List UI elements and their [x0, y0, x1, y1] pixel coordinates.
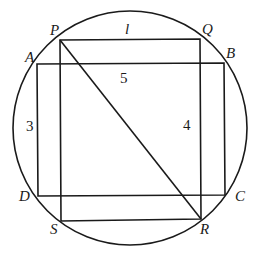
point-label-r: R	[199, 221, 209, 237]
point-label-a: A	[24, 49, 35, 65]
side-label-4: 4	[183, 117, 191, 133]
point-label-d: D	[18, 188, 30, 204]
point-label-s: S	[50, 221, 58, 237]
geometry-diagram: P Q A B D C S R l 5 3 4	[0, 0, 258, 254]
point-label-q: Q	[202, 21, 213, 37]
side-label-5: 5	[120, 70, 128, 86]
point-label-p: P	[49, 22, 59, 38]
side-label-l: l	[125, 21, 129, 37]
point-label-c: C	[235, 188, 246, 204]
diagonal-pr	[60, 40, 201, 219]
side-label-3: 3	[26, 118, 34, 134]
point-label-b: B	[226, 45, 235, 61]
